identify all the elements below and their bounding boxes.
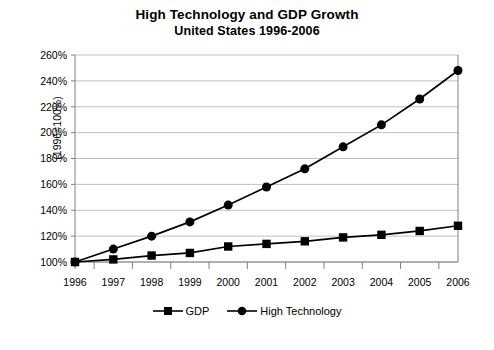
data-point-high-technology-2003 <box>339 142 348 151</box>
x-tick-label: 2003 <box>331 276 355 288</box>
y-tick-label: 140% <box>40 204 67 216</box>
x-tick-label: 1998 <box>140 276 164 288</box>
y-tick-label: 200% <box>40 126 67 138</box>
x-tick-label: 2004 <box>370 276 394 288</box>
y-axis-tick-labels: 100%120%140%160%180%200%220%240%260% <box>40 49 67 268</box>
data-point-gdp-2004 <box>377 231 385 239</box>
data-point-high-technology-2000 <box>224 201 233 210</box>
data-point-high-technology-1997 <box>109 245 118 254</box>
data-point-high-technology-1998 <box>147 232 156 241</box>
chart-legend: GDP High Technology <box>0 304 494 318</box>
x-tick-label: 2005 <box>408 276 432 288</box>
x-tick-label: 1997 <box>102 276 126 288</box>
x-tick-label: 2006 <box>446 276 470 288</box>
x-tick-label: 2000 <box>217 276 241 288</box>
y-tick-label: 100% <box>40 256 67 268</box>
data-point-gdp-2006 <box>454 222 462 230</box>
data-point-gdp-2002 <box>301 237 309 245</box>
legend-marker-square-icon <box>153 305 183 317</box>
data-point-high-technology-2006 <box>454 66 463 75</box>
legend-marker-circle-icon <box>227 305 257 317</box>
data-point-gdp-1998 <box>147 251 155 259</box>
data-point-high-technology-2004 <box>377 120 386 129</box>
chart-container: High Technology and GDP Growth United St… <box>0 0 494 350</box>
legend-label-high-technology: High Technology <box>260 304 341 318</box>
legend-label-gdp: GDP <box>186 304 210 318</box>
y-axis-ticks <box>71 55 75 262</box>
data-point-gdp-2005 <box>416 227 424 235</box>
data-point-gdp-1997 <box>109 255 117 263</box>
y-tick-label: 180% <box>40 152 67 164</box>
y-tick-label: 240% <box>40 75 67 87</box>
x-tick-label: 2002 <box>293 276 317 288</box>
data-point-high-technology-2002 <box>300 164 309 173</box>
y-tick-label: 220% <box>40 101 67 113</box>
y-tick-label: 260% <box>40 49 67 61</box>
data-point-high-technology-1996 <box>71 258 80 267</box>
data-point-gdp-1999 <box>186 249 194 257</box>
legend-item-gdp[interactable]: GDP <box>153 304 210 318</box>
data-point-high-technology-2005 <box>415 94 424 103</box>
series-lines-group <box>75 71 458 262</box>
data-point-high-technology-1999 <box>185 217 194 226</box>
gridlines-group <box>75 55 458 262</box>
x-tick-label: 2001 <box>255 276 279 288</box>
data-point-gdp-2003 <box>339 233 347 241</box>
plot-area: 100%120%140%160%180%200%220%240%260% 199… <box>0 0 494 350</box>
data-point-gdp-2000 <box>224 242 232 250</box>
x-tick-label: 1996 <box>63 276 87 288</box>
data-point-gdp-2001 <box>262 240 270 248</box>
x-axis-tick-labels: 1996199719981999200020012002200320042005… <box>63 276 470 288</box>
legend-item-high-technology[interactable]: High Technology <box>227 304 341 318</box>
x-tick-label: 1999 <box>178 276 202 288</box>
y-tick-label: 120% <box>40 230 67 242</box>
y-tick-label: 160% <box>40 178 67 190</box>
x-axis-ticks <box>75 262 439 269</box>
data-point-high-technology-2001 <box>262 182 271 191</box>
